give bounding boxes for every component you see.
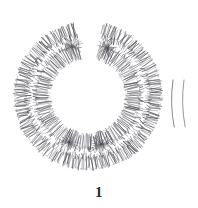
plate-background: [0, 0, 198, 208]
figure-plate: 1: [0, 0, 198, 208]
figure-number-label: 1: [0, 183, 198, 201]
figure-illustration: [0, 0, 198, 208]
